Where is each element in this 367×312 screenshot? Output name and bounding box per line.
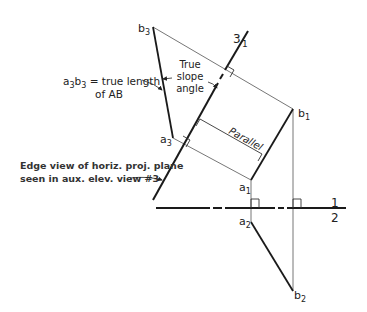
projection-lines [153,27,293,291]
point-a3-label: a3 [160,133,172,148]
fold-label-3-1-bottom: 1 [242,39,248,49]
diagram-canvas: Parallel b3 a3 b1 a1 a2 b2 3 1 1 2 True … [0,0,367,312]
point-a1-label: a1 [239,181,251,196]
point-a2-label: a2 [239,215,251,230]
point-b3-label: b3 [138,22,150,37]
slope-label-line2: slope [177,71,204,82]
edge-view-label-line2: seen in aux. elev. view #3 [20,173,159,184]
projector-b3-b1 [153,27,293,109]
slope-label-line1: True [178,59,200,70]
slope-arrow-left [163,78,172,79]
object-lines [153,27,293,291]
slope-label-line3: angle [176,83,204,94]
edge-view-label-line1: Edge view of horiz. proj. plane [20,160,183,171]
parallel-label: Parallel [227,125,265,153]
line-a2b2 [251,222,293,291]
fold-label-3: 3 [233,32,241,46]
point-b2-label: b2 [294,289,306,304]
fold-line-3-1 [153,31,248,200]
fold-label-1: 1 [331,196,339,210]
point-b1-label: b1 [298,107,310,122]
true-length-label-line2: of AB [95,88,123,100]
fold-label-2: 2 [331,211,339,225]
